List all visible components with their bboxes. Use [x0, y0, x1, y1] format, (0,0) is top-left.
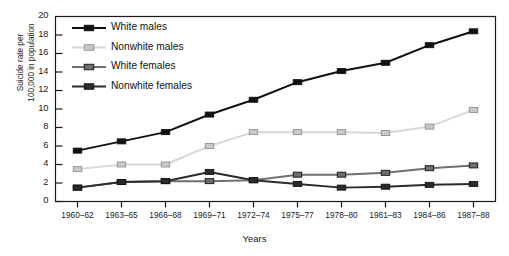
series-marker [161, 130, 170, 135]
series-marker [205, 169, 214, 174]
legend-label[interactable]: White females [111, 60, 176, 71]
series-marker [425, 182, 434, 187]
data-series [73, 169, 478, 190]
series-marker [337, 172, 346, 177]
series-marker [337, 69, 346, 74]
series-line [78, 110, 474, 169]
series-marker [117, 180, 126, 185]
y-tick-label: 2 [29, 177, 49, 187]
series-marker [73, 167, 82, 172]
series-marker [469, 107, 478, 112]
series-marker [205, 112, 214, 117]
series-marker [249, 130, 258, 135]
series-line [78, 165, 474, 187]
series-marker [381, 170, 390, 175]
y-tick-label: 8 [29, 121, 49, 131]
legend-label[interactable]: Nonwhite males [111, 41, 183, 52]
legend-marker-swatch [84, 64, 94, 70]
y-tick-label: 4 [29, 158, 49, 168]
legend-marker-swatch [84, 84, 94, 90]
y-tick-label: 6 [29, 140, 49, 150]
y-tick-label: 0 [29, 195, 49, 205]
series-marker [73, 185, 82, 190]
series-marker [381, 60, 390, 65]
x-axis-ticks [78, 202, 474, 208]
legend-item[interactable] [72, 84, 106, 90]
legend-label[interactable]: White males [111, 21, 167, 32]
y-tick-label: 16 [29, 47, 49, 57]
series-marker [161, 162, 170, 167]
y-tick-label: 12 [29, 84, 49, 94]
series-marker [469, 163, 478, 168]
legend-label[interactable]: Nonwhite females [111, 80, 192, 91]
series-marker [469, 29, 478, 34]
series-marker [249, 97, 258, 102]
series-marker [381, 184, 390, 189]
series-marker [469, 181, 478, 186]
x-axis-title: Years [0, 233, 509, 244]
y-tick-label: 18 [29, 29, 49, 39]
legend-marker-swatch [84, 25, 94, 31]
legend-marker-swatch [84, 45, 94, 51]
y-axis-ticks [56, 35, 63, 202]
series-marker [425, 124, 434, 129]
legend-item[interactable] [72, 45, 106, 51]
series-marker [337, 130, 346, 135]
y-tick-label: 14 [29, 66, 49, 76]
series-marker [425, 166, 434, 171]
series-marker [249, 178, 258, 183]
series-line [78, 172, 474, 188]
series-marker [293, 130, 302, 135]
series-marker [117, 139, 126, 144]
series-marker [337, 185, 346, 190]
series-marker [205, 179, 214, 184]
x-tick-label: 1987–88 [444, 210, 504, 220]
series-marker [425, 43, 434, 48]
series-marker [293, 181, 302, 186]
y-tick-label: 10 [29, 103, 49, 113]
series-marker [293, 172, 302, 177]
series-marker [293, 80, 302, 85]
legend-item[interactable] [72, 25, 106, 31]
y-tick-label: 20 [29, 10, 49, 20]
legend-item[interactable] [72, 64, 106, 70]
suicide-rate-line-chart: Suicide rate per 100,000 in population Y… [0, 0, 509, 256]
series-marker [73, 148, 82, 153]
series-marker [381, 131, 390, 136]
series-marker [161, 179, 170, 184]
series-marker [117, 162, 126, 167]
series-marker [205, 144, 214, 149]
